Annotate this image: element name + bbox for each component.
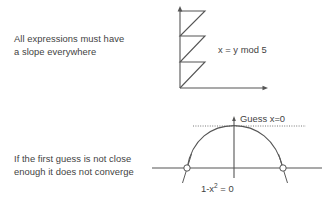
diagram-canvas: All expressions must have a slope everyw…: [0, 0, 330, 207]
label-mod-formula: x = y mod 5: [218, 44, 267, 56]
parabola-formula-lead: 1-x: [201, 183, 214, 194]
label-parabola-formula: 1-x2 = 0: [201, 183, 234, 195]
parabola-y-axis-arrow-icon: [232, 116, 236, 121]
left-root-marker: [184, 165, 190, 171]
right-root-marker: [280, 165, 286, 171]
label-guess-x-zero: Guess x=0: [240, 113, 285, 125]
parabola-plot: [152, 116, 322, 183]
parabola-formula-tail: = 0: [218, 183, 234, 194]
sawtooth-x-axis-arrow-icon: [263, 86, 269, 91]
caption-slope-everywhere: All expressions must have a slope everyw…: [14, 32, 124, 58]
sawtooth-waveform: [180, 11, 205, 88]
parabola-curve: [187, 126, 283, 168]
caption-does-not-converge: If the first guess is not close enough i…: [14, 152, 134, 178]
